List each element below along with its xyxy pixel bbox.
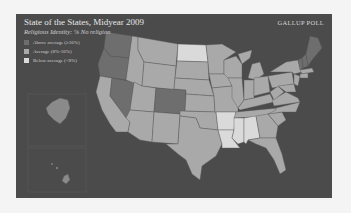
- chart-title: State of the States, Midyear 2009: [24, 17, 144, 27]
- state-kansas[interactable]: [185, 94, 215, 112]
- state-new-jersey[interactable]: [294, 74, 300, 86]
- state-wyoming[interactable]: [142, 62, 176, 90]
- state-south-dakota[interactable]: [175, 61, 209, 80]
- legend-swatch-above: [24, 40, 29, 45]
- state-indiana[interactable]: [244, 80, 254, 100]
- state-arizona[interactable]: [126, 110, 154, 142]
- state-new-york[interactable]: [270, 60, 302, 74]
- legend-label-below: Below average (<8%): [33, 58, 77, 63]
- legend-swatch-below: [24, 58, 29, 63]
- state-hawaii[interactable]: [62, 174, 70, 184]
- legend-label-above: Above average (≥16%): [33, 40, 80, 45]
- legend-swatch-average: [24, 49, 29, 54]
- hawaii-inset-box: [28, 148, 86, 192]
- chart-subtitle: Religious Identity: % No religion: [24, 28, 110, 35]
- gallup-poll-logo: GALLUP POLL: [277, 19, 324, 26]
- state-ohio[interactable]: [254, 76, 270, 96]
- state-montana[interactable]: [138, 37, 178, 66]
- state-wisconsin[interactable]: [224, 56, 242, 78]
- map-frame: State of the States, Midyear 2009 Religi…: [16, 14, 332, 198]
- legend: Above average (≥16%) Average (8%-16%) Be…: [24, 38, 80, 65]
- legend-item-above: Above average (≥16%): [24, 38, 80, 46]
- state-maine[interactable]: [306, 36, 322, 66]
- legend-item-below: Below average (<8%): [24, 56, 80, 64]
- state-florida[interactable]: [248, 138, 286, 174]
- state-alaska[interactable]: [46, 98, 70, 124]
- state-colorado[interactable]: [154, 88, 186, 114]
- state-arkansas[interactable]: [216, 112, 236, 130]
- legend-item-average: Average (8%-16%): [24, 47, 80, 55]
- legend-label-average: Average (8%-16%): [33, 49, 72, 54]
- state-connecticut[interactable]: [300, 73, 308, 78]
- state-new-mexico[interactable]: [152, 112, 180, 144]
- state-north-dakota[interactable]: [177, 44, 208, 62]
